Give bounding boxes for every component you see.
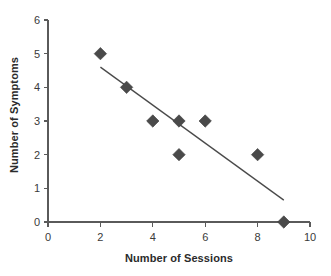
x-tick-label: 8	[255, 231, 261, 243]
y-tick-label: 6	[34, 14, 40, 26]
data-point-marker	[278, 216, 290, 228]
x-tick-label: 4	[150, 231, 156, 243]
x-tick-label: 10	[304, 231, 316, 243]
y-tick-label: 1	[34, 182, 40, 194]
x-tick-label: 2	[97, 231, 103, 243]
data-point-marker	[147, 115, 159, 127]
y-tick-label: 4	[34, 81, 40, 93]
data-point-marker	[173, 115, 185, 127]
data-point-marker	[173, 148, 185, 160]
y-axis: 0123456	[34, 14, 48, 228]
data-points	[94, 47, 290, 228]
data-point-marker	[251, 148, 263, 160]
y-tick-label: 0	[34, 216, 40, 228]
plot-area: 0123456 0246810	[0, 0, 331, 276]
x-tick-label: 6	[202, 231, 208, 243]
y-tick-label: 3	[34, 115, 40, 127]
x-axis: 0246810	[45, 222, 316, 243]
scatter-chart: Number of Symptoms Number of Sessions 01…	[0, 0, 331, 276]
x-tick-label: 0	[45, 231, 51, 243]
data-point-marker	[199, 115, 211, 127]
data-point-marker	[94, 47, 106, 59]
y-tick-label: 5	[34, 48, 40, 60]
y-tick-label: 2	[34, 149, 40, 161]
